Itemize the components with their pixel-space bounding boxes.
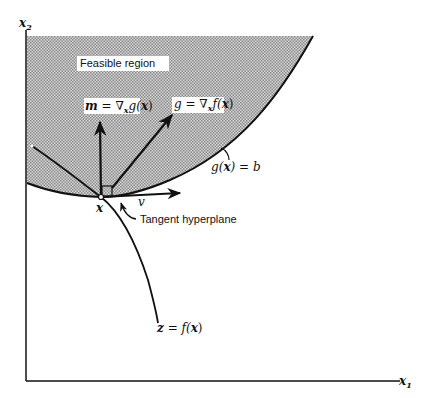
g-label: g = ∇xf(x) — [174, 97, 234, 113]
diagram-canvas: x2 x1 Feasible region m = ∇xg(x) g = ∇xf… — [0, 0, 427, 398]
point-x — [99, 195, 104, 200]
v-label: v — [138, 195, 145, 209]
tangent-hyperplane-label: Tangent hyperplane — [140, 213, 237, 225]
normal-vector-m — [100, 122, 101, 197]
x-axis-label: x1 — [398, 374, 412, 390]
objective-label: z = f(x) — [156, 321, 202, 335]
point-x-label: x — [95, 201, 104, 215]
y-axis-label: x2 — [18, 16, 32, 32]
feasible-region-label: Feasible region — [80, 57, 155, 69]
m-label: m = ∇xg(x) — [85, 99, 153, 115]
curve-end-dot — [31, 145, 34, 148]
tangent-pointer — [121, 203, 136, 219]
constraint-label: g(x) = b — [211, 160, 261, 174]
